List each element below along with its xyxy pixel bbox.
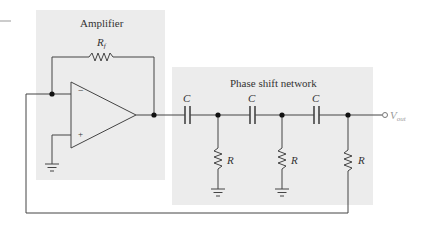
capacitor-2-label: C bbox=[248, 93, 255, 104]
capacitor-1-label: C bbox=[183, 93, 190, 104]
rf-label: Rf bbox=[97, 37, 106, 50]
resistor-3-label: R bbox=[358, 155, 365, 166]
noninverting-sign: + bbox=[78, 130, 83, 139]
vout-symbol: V bbox=[390, 109, 397, 121]
junction-dot-2 bbox=[279, 112, 284, 117]
capacitor-3-label: C bbox=[312, 93, 319, 104]
vout-label: Vout bbox=[390, 110, 406, 123]
rf-subscript: f bbox=[104, 42, 106, 50]
circuit-schematic bbox=[0, 0, 431, 226]
amplifier-label: Amplifier bbox=[80, 18, 123, 29]
circuit-diagram: Amplifier Rf Phase shift network − + C C… bbox=[0, 0, 431, 226]
junction-dot-1 bbox=[215, 112, 220, 117]
junction-dot-output bbox=[151, 112, 156, 117]
inverting-sign: − bbox=[78, 86, 84, 96]
junction-dot-inverting bbox=[49, 91, 54, 96]
junction-dot-3 bbox=[345, 112, 350, 117]
resistor-2-label: R bbox=[291, 155, 298, 166]
output-terminal-icon bbox=[383, 113, 388, 118]
resistor-1-label: R bbox=[227, 155, 234, 166]
phase-shift-label: Phase shift network bbox=[230, 78, 317, 89]
rf-symbol: R bbox=[97, 36, 104, 48]
vout-subscript: out bbox=[397, 115, 406, 123]
